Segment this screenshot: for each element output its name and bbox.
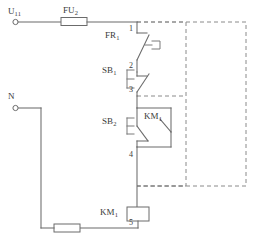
circuit-diagram: U11 FU2 FR1 SB1 SB2 KM1 KM1 N 1 2 3 4 5: [0, 0, 254, 240]
supply-terminal-dot: [13, 19, 18, 24]
fr1-contact-blade: [137, 35, 149, 60]
dashed-outer-enclosure: [137, 22, 246, 186]
dashed-inner-enclosure: [137, 22, 186, 186]
supply-terminal-label: U11: [8, 7, 21, 16]
sb1-contact-blade: [137, 74, 149, 92]
node-number-3: 3: [129, 86, 133, 94]
node-number-5: 5: [129, 219, 133, 227]
contactor-coil-label: KM1: [100, 208, 118, 217]
neutral-terminal-dot: [13, 105, 18, 110]
stop-button-label: SB1: [102, 66, 117, 75]
fuse-top-body: [61, 18, 87, 26]
neutral-terminal-label: N: [8, 92, 15, 101]
fuse-bottom-body: [54, 224, 80, 232]
node-number-4: 4: [129, 151, 133, 159]
holding-contact-label: KM1: [144, 112, 162, 121]
node-number-1: 1: [129, 25, 133, 33]
fuse-top-label: FU2: [63, 6, 78, 15]
node-number-2: 2: [129, 62, 133, 70]
circuit-schematic-canvas: [0, 0, 254, 240]
start-button-label: SB2: [102, 117, 117, 126]
thermal-relay-label: FR1: [105, 31, 120, 40]
fr1-thermal-element: [152, 41, 160, 49]
sb2-contact-blade: [137, 126, 148, 141]
